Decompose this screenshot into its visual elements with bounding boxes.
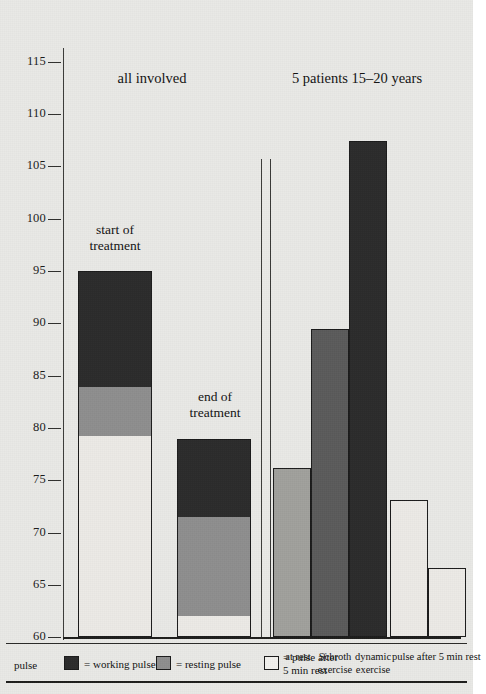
- y-tick-115: [48, 62, 61, 63]
- y-tick-95: [48, 271, 61, 272]
- legend-label-resting-pulse: = resting pulse: [176, 658, 241, 671]
- bar-label-start-of-treatment: start of treatment: [75, 222, 155, 255]
- y-tick-100: [48, 219, 61, 220]
- y-label-65: 65: [8, 577, 46, 592]
- y-axis-line: [63, 48, 64, 640]
- y-axis-title: pulse: [14, 659, 37, 672]
- legend-top-rule: [6, 643, 467, 644]
- y-tick-65: [48, 585, 61, 586]
- y-tick-70: [48, 533, 61, 534]
- stacked-bar-end-of-treatment-outline: [177, 439, 251, 637]
- legend-swatch-resting-pulse: [156, 656, 171, 670]
- y-label-75: 75: [8, 472, 46, 487]
- bar-at-rest[interactable]: [273, 468, 311, 637]
- y-label-115: 115: [8, 54, 46, 69]
- stacked-bar-start-of-treatment-outline: [78, 271, 152, 637]
- y-label-80: 80: [8, 420, 46, 435]
- x-axis-baseline: [63, 637, 461, 639]
- y-label-100: 100: [8, 211, 46, 226]
- legend-swatch-working-pulse: [64, 656, 79, 670]
- panel-divider-1: [261, 159, 262, 637]
- bar-label-end-of-treatment: end of treatment: [172, 389, 258, 422]
- panel-divider-2: [270, 159, 271, 637]
- bar-pulse-after-rest-b[interactable]: [428, 568, 466, 637]
- panel-right-header: 5 patients 15–20 years: [252, 70, 462, 88]
- y-tick-85: [48, 376, 61, 377]
- category-label-line1: dynamic: [349, 651, 397, 664]
- y-tick-110: [48, 114, 61, 115]
- legend: pulse = working pulse = resting pulse = …: [6, 645, 467, 681]
- bar-dynamic-exercise[interactable]: [349, 141, 387, 637]
- y-tick-60: [48, 637, 61, 638]
- panel-left-header: all involved: [82, 70, 222, 88]
- y-label-60: 60: [8, 629, 46, 644]
- bar-schroth-exercise[interactable]: [311, 329, 349, 637]
- y-label-85: 85: [8, 368, 46, 383]
- y-label-70: 70: [8, 525, 46, 540]
- bar-label-line2: treatment: [172, 405, 258, 421]
- category-label-pulse-after-rest: pulse after 5 min rest: [392, 651, 486, 664]
- y-label-105: 105: [8, 158, 46, 173]
- bar-pulse-after-rest-a[interactable]: [390, 500, 428, 637]
- legend-label-working-pulse: = working pulse: [84, 658, 156, 671]
- bar-label-line1: end of: [172, 389, 258, 405]
- y-tick-90: [48, 323, 61, 324]
- bar-label-line1: start of: [75, 222, 155, 238]
- y-tick-105: [48, 166, 61, 167]
- bar-label-line2: treatment: [75, 238, 155, 254]
- y-label-110: 110: [8, 106, 46, 121]
- y-label-90: 90: [8, 315, 46, 330]
- legend-bottom-rule: [6, 681, 467, 683]
- y-tick-75: [48, 480, 61, 481]
- category-label-dynamic-exercise: dynamic exercise: [349, 651, 397, 676]
- y-tick-80: [48, 428, 61, 429]
- y-label-95: 95: [8, 263, 46, 278]
- category-label-line2: exercise: [349, 664, 397, 677]
